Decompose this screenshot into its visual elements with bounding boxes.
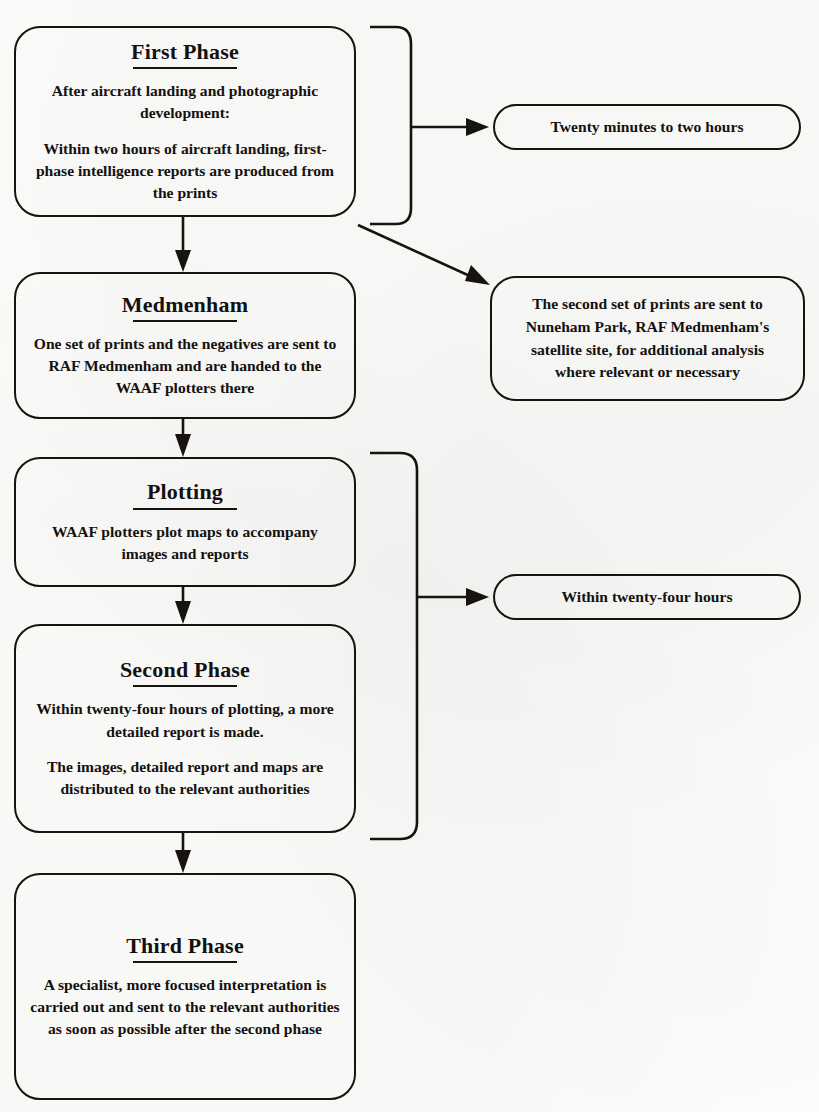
callout-nuneham-park[interactable]: The second set of prints are sent to Nun… [490,276,805,401]
edge-first-phase-to-nuneham [358,225,490,285]
node-title: Medmenham [122,292,248,317]
node-title: First Phase [131,39,239,64]
edge-first-to-medmenham [175,217,191,272]
title-underline [133,961,237,963]
node-first-phase[interactable]: First Phase After aircraft landing and p… [14,26,356,217]
brace-first-phase [370,27,489,224]
node-paragraph: After aircraft landing and photographic … [30,80,340,124]
node-paragraph: Within two hours of aircraft landing, fi… [30,138,340,204]
title-underline [133,67,237,69]
node-title: Second Phase [120,657,250,682]
node-paragraph: One set of prints and the negatives are … [30,333,340,399]
node-paragraph: Within twenty-four hours of plotting, a … [30,698,340,742]
callout-text: Twenty minutes to two hours [551,118,744,136]
edge-medmenham-to-plotting [175,419,191,457]
callout-text: The second set of prints are sent to Nun… [510,293,785,384]
node-paragraph: A specialist, more focused interpretatio… [30,974,340,1040]
callout-timing-second-phase[interactable]: Within twenty-four hours [493,574,801,620]
edge-plotting-to-second-phase [175,587,191,624]
title-underline [133,685,237,687]
node-medmenham[interactable]: Medmenham One set of prints and the nega… [14,272,356,419]
flowchart-canvas: First Phase After aircraft landing and p… [0,0,819,1112]
title-underline [133,320,237,322]
node-second-phase[interactable]: Second Phase Within twenty-four hours of… [14,624,356,833]
node-plotting[interactable]: Plotting WAAF plotters plot maps to acco… [14,457,356,587]
callout-timing-first-phase[interactable]: Twenty minutes to two hours [493,104,801,150]
node-paragraph: WAAF plotters plot maps to accompany ima… [30,521,340,565]
callout-text: Within twenty-four hours [562,588,733,606]
node-title: Plotting [147,479,223,504]
node-third-phase[interactable]: Third Phase A specialist, more focused i… [14,873,356,1100]
node-title: Third Phase [126,933,244,958]
brace-plotting-second-phase [370,453,489,839]
title-underline [133,508,237,510]
node-paragraph: The images, detailed report and maps are… [30,756,340,800]
edge-second-to-third-phase [175,833,191,873]
